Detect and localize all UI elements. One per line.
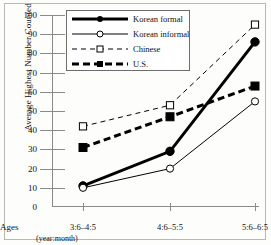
data-point-marker [251, 38, 259, 46]
y-tick-label: 50 [28, 106, 37, 116]
y-tick-label: 0 [33, 202, 38, 212]
y-tick-label: 90 [28, 29, 37, 39]
legend-swatch [70, 12, 130, 26]
x-axis-unit-note: (year:month) [36, 234, 78, 243]
data-point-marker [79, 123, 86, 130]
y-tick-mark [40, 188, 52, 189]
y-tick-mark [40, 169, 52, 170]
figure-container: Average Highest Number Counted 010203040… [0, 0, 271, 245]
y-tick-label: 70 [28, 68, 37, 78]
data-point-marker [166, 102, 173, 109]
x-tick-label: 3:6–4:5 [70, 222, 96, 232]
y-tick-label: 20 [28, 164, 37, 174]
data-point-marker [251, 98, 258, 105]
legend: Korean formalKorean informalChineseU.S. [66, 10, 190, 71]
y-tick-label: 60 [28, 87, 37, 97]
legend-label: Korean informal [133, 29, 189, 39]
data-point-marker [79, 184, 86, 191]
x-tick-label: 4:6–5:5 [157, 222, 183, 232]
y-tick-label: 100 [24, 10, 38, 20]
data-point-marker [251, 82, 259, 90]
data-point-marker [166, 147, 174, 155]
legend-label: U.S. [133, 59, 148, 69]
legend-item: U.S. [67, 56, 189, 71]
x-axis-ages-label: Ages [0, 222, 19, 232]
data-point-marker [251, 21, 258, 28]
y-tick-mark [40, 111, 52, 112]
y-tick-label: 40 [28, 125, 37, 135]
y-tick-mark [40, 130, 52, 131]
y-tick-mark [40, 92, 52, 93]
data-point-marker [166, 165, 173, 172]
legend-swatch [70, 57, 130, 71]
data-point-marker [166, 113, 174, 121]
data-point-marker [79, 143, 87, 151]
legend-swatch [70, 27, 130, 41]
y-tick-mark [40, 15, 52, 16]
legend-label: Korean formal [133, 14, 183, 24]
series-u-s [79, 82, 259, 151]
legend-item: Korean informal [67, 26, 189, 41]
legend-item: Chinese [67, 41, 189, 56]
y-tick-mark [40, 73, 52, 74]
x-tick-label: 5:6–6:5 [242, 222, 268, 232]
y-tick-mark [40, 53, 52, 54]
y-tick-label: 30 [28, 144, 37, 154]
y-tick-mark [40, 34, 52, 35]
y-tick-label: 10 [28, 183, 37, 193]
y-tick-mark [40, 149, 52, 150]
legend-label: Chinese [133, 44, 160, 54]
legend-swatch [70, 42, 130, 56]
legend-item: Korean formal [67, 11, 189, 26]
y-tick-label: 80 [28, 48, 37, 58]
